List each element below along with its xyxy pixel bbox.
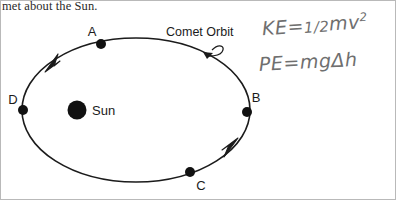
comet-orbit-label: Comet Orbit [166, 25, 234, 39]
pe-height: h [344, 48, 358, 71]
orbit-point-d [18, 105, 28, 115]
sun-label: Sun [92, 103, 115, 118]
ke-lhs: KE [261, 16, 288, 40]
pe-mass: m [299, 50, 319, 73]
orbit-point-b-label: B [252, 90, 261, 105]
ke-mass: m [328, 11, 349, 34]
orbit-direction-arrow-upper-icon [45, 54, 60, 72]
ke-equals: = [287, 14, 305, 37]
orbit-point-c-label: C [196, 178, 205, 193]
orbit-point-d-label: D [8, 92, 17, 107]
pe-delta: Δ [331, 49, 346, 72]
orbit-point-a [96, 39, 106, 49]
orbit-direction-arrow-lower-icon [222, 138, 238, 157]
ke-exponent: 2 [359, 10, 368, 25]
pe-lhs: PE [258, 52, 284, 75]
diagram-page: met about the Sun. Sun Comet Orbit A B C… [0, 0, 396, 200]
ke-fraction: 1/2 [303, 17, 329, 36]
orbit-point-a-label: A [88, 24, 97, 39]
pe-equals: = [283, 51, 301, 74]
orbit-point-b [242, 107, 252, 117]
sun-circle [68, 101, 87, 120]
orbit-point-c [185, 167, 195, 177]
